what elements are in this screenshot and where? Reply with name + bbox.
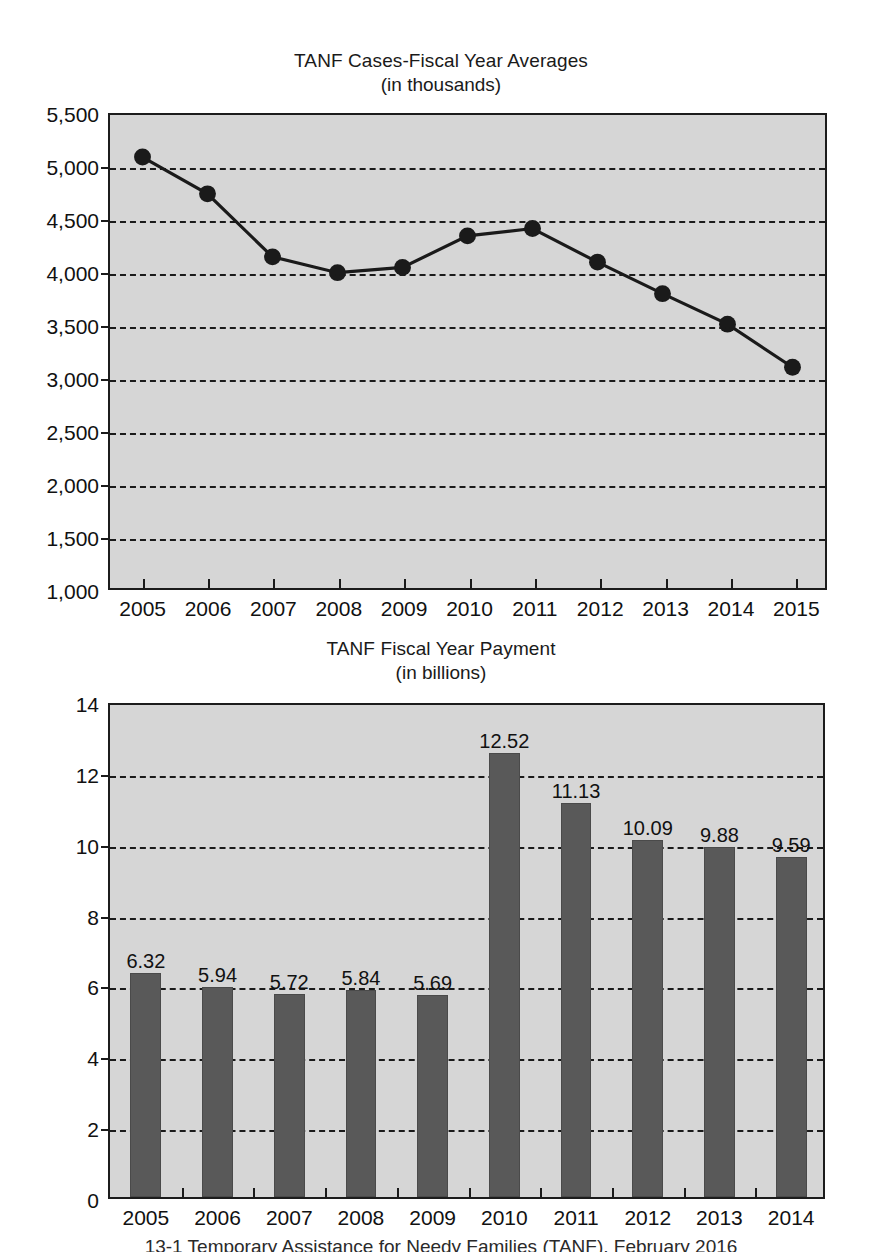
- y-axis-tick-label: 4,500: [46, 209, 110, 233]
- line-data-point: [784, 359, 801, 376]
- x-tick-mark: [540, 1188, 542, 1197]
- line-chart-subtitle: (in thousands): [0, 73, 882, 97]
- gridline: [110, 327, 825, 329]
- gridline: [110, 776, 823, 778]
- bar-value-label: 10.09: [623, 817, 673, 840]
- y-axis-tick-label: 4: [87, 1047, 110, 1071]
- bar: [130, 973, 161, 1197]
- bar: [202, 987, 233, 1197]
- bar-value-label: 11.13: [552, 780, 601, 803]
- x-axis-tick-label: 2007: [250, 588, 297, 621]
- y-axis-tick-label: 2,000: [46, 474, 110, 498]
- bar: [704, 847, 735, 1197]
- y-axis-tick-label: 12: [76, 764, 110, 788]
- y-axis-tick-label: 6: [87, 976, 110, 1000]
- bar-chart-plot-area: 024681012146.3220055.9420065.7220075.842…: [108, 703, 825, 1199]
- x-axis-tick-label: 2008: [338, 1197, 385, 1230]
- x-tick-mark: [535, 579, 537, 588]
- x-axis-tick-label: 2013: [696, 1197, 743, 1230]
- line-chart-inner: 1,0001,5002,0002,5003,0003,5004,0004,500…: [110, 115, 825, 588]
- bar: [274, 994, 305, 1197]
- x-axis-tick-label: 2015: [773, 588, 820, 621]
- x-tick-mark: [666, 579, 668, 588]
- x-axis-tick-label: 2009: [381, 588, 428, 621]
- line-data-point: [329, 264, 346, 281]
- y-axis-tick-label: 10: [76, 835, 110, 859]
- bar-value-label: 9.59: [772, 834, 811, 857]
- line-chart-series: [110, 115, 825, 588]
- line-data-point: [459, 227, 476, 244]
- x-tick-mark: [469, 1188, 471, 1197]
- gridline: [110, 168, 825, 170]
- bar-chart-section: TANF Fiscal Year Payment (in billions): [0, 636, 882, 685]
- x-axis-tick-label: 2014: [708, 588, 755, 621]
- bar: [632, 840, 663, 1197]
- y-axis-tick-label: 14: [76, 693, 110, 717]
- x-tick-mark: [208, 579, 210, 588]
- x-axis-tick-label: 2005: [119, 588, 166, 621]
- y-axis-tick-label: 2: [87, 1118, 110, 1142]
- x-tick-mark: [731, 579, 733, 588]
- bar-value-label: 9.88: [700, 824, 739, 847]
- line-data-point: [134, 149, 151, 166]
- x-axis-tick-label: 2008: [315, 588, 362, 621]
- bar-value-label: 12.52: [479, 730, 529, 753]
- x-tick-mark: [182, 1188, 184, 1197]
- bar: [776, 857, 807, 1197]
- gridline: [110, 380, 825, 382]
- gridline: [110, 539, 825, 541]
- y-axis-tick-label: 8: [87, 906, 110, 930]
- line-chart-section: TANF Cases-Fiscal Year Averages (in thou…: [0, 48, 882, 97]
- x-axis-tick-label: 2013: [642, 588, 689, 621]
- line-data-point: [264, 248, 281, 265]
- bar-value-label: 5.94: [198, 964, 237, 987]
- bar-chart-title: TANF Fiscal Year Payment: [0, 636, 882, 661]
- bar-value-label: 5.72: [270, 971, 309, 994]
- y-axis-tick-label: 3,000: [46, 368, 110, 392]
- x-axis-tick-label: 2006: [185, 588, 232, 621]
- y-axis-tick-label: 0: [87, 1189, 110, 1213]
- gridline: [110, 433, 825, 435]
- x-axis-tick-label: 2007: [266, 1197, 313, 1230]
- x-axis-tick-label: 2010: [446, 588, 493, 621]
- x-axis-tick-label: 2014: [768, 1197, 815, 1230]
- x-axis-tick-label: 2006: [194, 1197, 241, 1230]
- x-axis-tick-label: 2005: [122, 1197, 169, 1230]
- x-axis-tick-label: 2011: [512, 588, 557, 621]
- figure-caption: 13-1 Temporary Assistance for Needy Fami…: [0, 1236, 882, 1252]
- y-axis-tick-label: 4,000: [46, 262, 110, 286]
- line-data-point: [719, 316, 736, 333]
- line-chart-title: TANF Cases-Fiscal Year Averages: [0, 48, 882, 73]
- y-axis-tick-label: 3,500: [46, 315, 110, 339]
- x-tick-mark: [796, 579, 798, 588]
- bar-chart-inner: 024681012146.3220055.9420065.7220075.842…: [110, 705, 823, 1197]
- x-tick-mark: [404, 579, 406, 588]
- x-tick-mark: [684, 1188, 686, 1197]
- gridline: [110, 274, 825, 276]
- x-axis-tick-label: 2012: [624, 1197, 671, 1230]
- bar: [489, 753, 520, 1197]
- line-chart-plot-area: 1,0001,5002,0002,5003,0003,5004,0004,500…: [108, 113, 827, 590]
- x-axis-tick-label: 2010: [481, 1197, 528, 1230]
- x-tick-mark: [397, 1188, 399, 1197]
- x-tick-mark: [755, 1188, 757, 1197]
- bar-value-label: 5.69: [413, 972, 452, 995]
- bar-value-label: 6.32: [126, 950, 165, 973]
- line-data-point: [654, 285, 671, 302]
- x-tick-mark: [612, 1188, 614, 1197]
- x-tick-mark: [325, 1188, 327, 1197]
- y-axis-tick-label: 2,500: [46, 421, 110, 445]
- x-tick-mark: [470, 579, 472, 588]
- bar-value-label: 5.84: [341, 967, 380, 990]
- bar: [561, 803, 592, 1197]
- bar-chart-subtitle: (in billions): [0, 661, 882, 685]
- x-tick-mark: [339, 579, 341, 588]
- x-axis-tick-label: 2012: [577, 588, 624, 621]
- x-tick-mark: [253, 1188, 255, 1197]
- x-axis-tick-label: 2009: [409, 1197, 456, 1230]
- x-axis-tick-label: 2011: [553, 1197, 598, 1230]
- x-tick-mark: [273, 579, 275, 588]
- y-axis-tick-label: 5,500: [46, 103, 110, 127]
- y-axis-tick-label: 5,000: [46, 156, 110, 180]
- gridline: [110, 221, 825, 223]
